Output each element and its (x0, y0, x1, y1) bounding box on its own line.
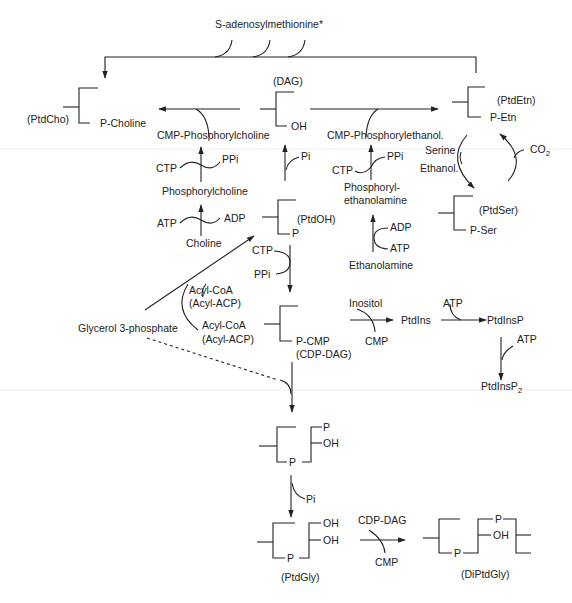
cdp-dag-cmp-hook (369, 530, 385, 553)
dag-oh: OH (291, 120, 307, 132)
atp-label: ATP (157, 217, 177, 229)
cmp-label: CMP (365, 335, 388, 347)
atp1-label: ATP (443, 297, 463, 309)
adp-label: ADP (390, 221, 412, 233)
ptdcho-group: P-Choline (100, 117, 146, 129)
pgp-bridge-p: P (289, 456, 296, 468)
phospholipid-pathway-diagram: S-adenosylmethionine* (PtdCho) P-Choline… (0, 0, 572, 603)
acyl-acp-1-label: (Acyl-ACP) (189, 297, 241, 309)
sam-methylation-path: S-adenosylmethionine* (105, 18, 476, 78)
ptdgly-label: (PtdGly) (281, 571, 320, 583)
diptdgly-p1: P (495, 513, 502, 525)
serine-hook (460, 152, 462, 164)
diptdgly-label: (DiPtdGly) (461, 568, 509, 580)
ptdoh-to-cdpdag: CTP PPi (252, 244, 290, 292)
serine-to-ptdser-arrow (458, 135, 474, 188)
ptdetn-bracket (468, 87, 485, 117)
serine-label: Serine (425, 144, 456, 156)
atp-label: ATP (390, 242, 410, 254)
ctp-label: CTP (252, 244, 273, 256)
phosphoryl-label-1: Phosphoryl- (344, 181, 401, 193)
acylation-path: Acyl-CoA (Acyl-ACP) Acyl-CoA (Acyl-ACP) … (78, 236, 278, 380)
glycerol3p-join-hook (280, 380, 291, 394)
ppi-label: PPi (387, 150, 403, 162)
ctp-ppi-wave (180, 162, 220, 168)
ptdser-group: P-Ser (470, 224, 497, 236)
ptdinsp-label: PtdInsP (487, 314, 524, 326)
ptdgly-oh-1: OH (323, 517, 339, 529)
ptdetn-structure: (PtdEtn) P-Etn (452, 87, 536, 123)
cdpdag-group: P-CMP (296, 335, 330, 347)
ptdgly-bridge-p: P (287, 552, 294, 564)
ctp-ppi-curve (355, 157, 385, 173)
choline-label: Choline (186, 237, 222, 249)
ethanolamine-branch: CTP PPi Phosphoryl- ethanolamine ADP ATP… (332, 145, 413, 271)
pgp-structure: P P OH (259, 421, 339, 468)
ptdins-label: PtdIns (401, 314, 431, 326)
ptdcho-bracket (79, 88, 98, 123)
adp-atp-curve (374, 228, 388, 249)
ptdoh-group: P (292, 227, 299, 239)
dag-label: (DAG) (273, 75, 303, 87)
ptdcho-structure: (PtdCho) P-Choline (27, 88, 146, 129)
phosphoryl-label-2: ethanolamine (344, 194, 407, 206)
ppi-label: PPi (222, 153, 238, 165)
diptdgly-oh: OH (493, 529, 509, 541)
pgp-right-bracket (302, 427, 322, 462)
pi-hook (292, 483, 305, 499)
cdpdag-structure: P-CMP (CDP-DAG) (264, 306, 351, 360)
cmp-phosphorylethanol-label: CMP-Phosphorylethanol. (327, 129, 444, 141)
ethanolamine-label: Ethanolamine (349, 259, 413, 271)
ptdgly-oh-2: OH (323, 534, 339, 546)
acyl-coa-1-label: Acyl-CoA (189, 284, 233, 296)
serine-exchange-cycle: Serine Ethanol. CO2 (420, 134, 551, 188)
adp-label: ADP (224, 212, 246, 224)
ptdcho-label: (PtdCho) (27, 113, 69, 125)
diptdgly-structure: P P OH (DiPtdGly) (423, 513, 531, 580)
sam-hook-1 (215, 40, 232, 57)
sam-hook-2 (253, 40, 270, 57)
ptdetn-group: P-Etn (490, 111, 516, 123)
sam-label: S-adenosylmethionine* (215, 18, 323, 30)
pi-label: Pi (306, 493, 315, 505)
atp-adp-wave (180, 217, 220, 223)
pi-label: Pi (301, 150, 310, 162)
diptdgly-p2: P (454, 547, 461, 559)
ptdoh-label: (PtdOH) (297, 213, 336, 225)
acyl-acp-2-label: (Acyl-ACP) (202, 333, 254, 345)
cdpdag-label: (CDP-DAG) (296, 348, 351, 360)
pgp-oh: OH (323, 437, 339, 449)
atp2-label: ATP (517, 333, 537, 345)
ptdetn-label: (PtdEtn) (497, 94, 536, 106)
ptdgly-to-diptdgly: CDP-DAG CMP (358, 514, 406, 568)
glycerol3p-label: Glycerol 3-phosphate (78, 322, 178, 334)
ptdser-structure: (PtdSer) P-Ser (438, 196, 518, 236)
ctp-label: CTP (156, 162, 177, 174)
cmp-label: CMP (375, 556, 398, 568)
ptdoh-to-dag: Pi (285, 145, 310, 181)
ptdgly-structure: P OH OH (PtdGly) (257, 517, 339, 583)
ctp-ppi-curve (274, 251, 290, 274)
pi-hook (286, 157, 299, 170)
diptdgly-mid-bracket (463, 519, 493, 553)
ptdinsp2-label: PtdInsP2 (481, 380, 523, 395)
inositol-label: Inositol (349, 297, 382, 309)
inositol-branch: Inositol CMP PtdIns ATP PtdInsP ATP PtdI… (349, 297, 537, 395)
cdp-dag-label: CDP-DAG (358, 514, 406, 526)
ctp-label: CTP (332, 164, 353, 176)
pgp-p: P (323, 421, 330, 433)
phosphorylcholine-label: Phosphorylcholine (162, 185, 248, 197)
cmp-phosphorylcholine-label: CMP-Phosphorylcholine (157, 129, 270, 141)
dag-structure: (DAG) OH (260, 75, 307, 132)
ppi-label: PPi (254, 268, 270, 280)
atp2-hook (502, 346, 513, 360)
ptdser-label: (PtdSer) (479, 204, 518, 216)
sam-hook-3 (288, 40, 305, 57)
ptdoh-structure: (PtdOH) P (262, 200, 336, 239)
choline-branch: CMP-Phosphorylcholine CTP PPi Phosphoryl… (156, 129, 270, 249)
co2-label: CO2 (530, 143, 551, 158)
ethanol-label: Ethanol. (420, 162, 459, 174)
acyl-coa-2-label: Acyl-CoA (202, 319, 246, 331)
